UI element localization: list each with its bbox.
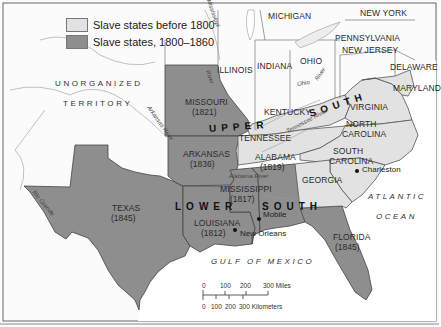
label-arkansas: ARKANSAS: [183, 150, 230, 159]
scale-miles-300: 300 Miles: [263, 282, 291, 289]
label-pennsylvania: PENNSYLVANIA: [335, 34, 400, 43]
label-louisiana: LOUISIANA: [194, 219, 240, 228]
label-atlantic: ATLANTIC: [368, 193, 426, 201]
label-south-carolina-1: SOUTH: [333, 147, 363, 156]
label-unorganized: UNORGANIZED: [55, 80, 143, 88]
label-indiana: INDIANA: [257, 62, 292, 71]
label-charleston: Charleston: [362, 166, 401, 174]
label-michigan: MICHIGAN: [268, 12, 311, 21]
legend-item-1800-1860: Slave states, 1800–1860: [66, 33, 215, 50]
scale-km-300: 300 Kilometers: [239, 303, 282, 310]
label-georgia: GEORGIA: [302, 176, 342, 185]
label-maryland: MARYLAND: [393, 84, 441, 93]
label-ocean: OCEAN: [376, 213, 417, 221]
label-alabama: ALABAMA: [255, 153, 296, 162]
legend-label: Slave states, 1800–1860: [93, 36, 214, 48]
legend-swatch-dark: [66, 35, 88, 49]
scale-miles-100: 100: [220, 282, 231, 289]
scale-line: [202, 290, 282, 304]
label-mississippi: MISSISSIPPI: [220, 185, 272, 194]
label-texas: TEXAS: [112, 204, 140, 213]
label-mobile: Mobile: [263, 211, 287, 219]
label-tennessee: TENNESSEE: [239, 134, 291, 143]
label-territory: TERRITORY: [63, 100, 132, 108]
label-illinois: ILLINOIS: [217, 66, 253, 75]
legend-label: Slave states before 1800: [93, 19, 215, 31]
scale-km-200: 200: [225, 303, 236, 310]
label-louisiana-year: (1812): [201, 229, 226, 238]
label-new-orleans: New Orleans: [240, 230, 286, 238]
scale-miles-200: 200: [240, 282, 251, 289]
label-delaware: DELAWARE: [390, 63, 438, 72]
label-gulf-of-mexico: GULF OF MEXICO: [211, 258, 314, 266]
city-dot-mobile: [257, 217, 261, 221]
label-florida: FLORIDA: [333, 233, 371, 242]
city-dot-charleston: [355, 169, 359, 173]
label-florida-year: (1845): [335, 243, 360, 252]
label-alabama-year: (1819): [260, 163, 285, 172]
label-lower: LOWER: [175, 202, 237, 212]
scale-km-0: 0: [202, 303, 206, 310]
legend-swatch-light: [66, 18, 88, 32]
legend-item-before-1800: Slave states before 1800: [66, 16, 215, 33]
label-texas-year: (1845): [111, 214, 136, 223]
label-north-carolina-1: NORTH: [346, 120, 377, 129]
city-dot-new-orleans: [233, 228, 237, 232]
label-new-york: NEW YORK: [360, 9, 407, 18]
scale-km-100: 100: [211, 303, 222, 310]
scale-miles-0: 0: [202, 282, 206, 289]
label-missouri: MISSOURI: [185, 98, 228, 107]
label-new-jersey: NEW JERSEY: [342, 46, 398, 55]
label-ohio: OHIO: [300, 57, 322, 66]
legend: Slave states before 1800 Slave states, 1…: [66, 16, 215, 50]
label-arkansas-year: (1836): [190, 160, 215, 169]
label-kentucky: KENTUCKY: [264, 108, 311, 117]
label-north-carolina-2: CAROLINA: [342, 130, 386, 139]
label-missouri-year: (1821): [192, 108, 217, 117]
label-alabama-river: Alabama River: [229, 173, 268, 179]
